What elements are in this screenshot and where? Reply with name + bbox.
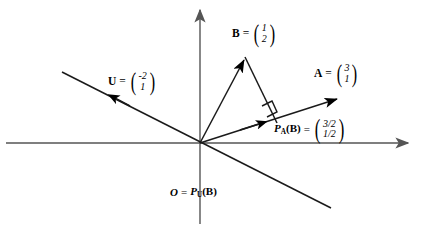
vector-b-equals: = — [243, 28, 250, 40]
vector-u-name: U — [108, 76, 116, 88]
vector-b-label: B = ( 1 2 ) — [232, 22, 277, 46]
vector-b-bottom: 2 — [262, 34, 267, 45]
paren-close: ) — [338, 117, 344, 142]
projection-a-label: PA(B) = ( 3/2 1/2 ) — [274, 117, 346, 142]
projection-a-argument: (B) — [286, 122, 301, 134]
projection-u-p: P — [190, 185, 197, 197]
vector-b-column: ( 1 2 ) — [252, 22, 276, 46]
vector-u-column: ( -2 1 ) — [129, 70, 157, 94]
vector-u-bottom: 1 — [140, 82, 145, 93]
projection-u-label: O = PU(B) — [170, 186, 217, 200]
projection-a-equals: = — [304, 124, 310, 135]
vector-u-arrow — [113, 97, 130, 106]
vector-u-label: U = ( -2 1 ) — [108, 70, 157, 94]
vector-projection-figure: B = ( 1 2 ) A = ( 3 1 ) — [0, 0, 421, 229]
paren-open: ( — [336, 62, 341, 86]
vector-a-column: ( 3 1 ) — [335, 62, 359, 86]
vector-a-arrow — [240, 123, 262, 130]
origin-symbol: O — [170, 187, 178, 198]
paren-close: ) — [269, 22, 274, 46]
vector-a-bottom: 1 — [344, 74, 349, 85]
projection-u-expression: PU(B) — [190, 186, 217, 200]
vector-a-name: A — [314, 68, 322, 80]
perpendicular-segment — [245, 57, 277, 123]
projection-a-column: ( 3/2 1/2 ) — [313, 117, 346, 142]
vector-a-label: A = ( 3 1 ) — [314, 62, 359, 86]
projection-a-bottom: 1/2 — [323, 129, 336, 140]
paren-close: ) — [352, 62, 357, 86]
paren-open: ( — [254, 22, 259, 46]
paren-close: ) — [149, 70, 154, 94]
paren-open: ( — [315, 117, 321, 142]
projection-u-argument: (B) — [202, 185, 217, 197]
vector-b-name: B — [232, 28, 240, 40]
vector-a-equals: = — [325, 68, 332, 80]
projection-u-equals: = — [181, 187, 187, 198]
projection-a-expression: PA(B) — [274, 123, 301, 137]
paren-open: ( — [130, 70, 135, 94]
vector-u-equals: = — [119, 76, 126, 88]
projection-a-p: P — [274, 122, 281, 134]
